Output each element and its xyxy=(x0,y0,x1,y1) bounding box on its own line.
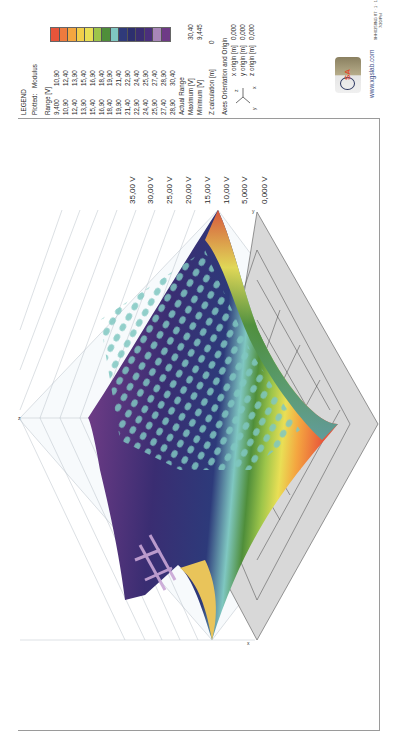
x-axis-label: x xyxy=(247,640,250,646)
voltage-surface xyxy=(88,210,338,640)
y-axis-label: y xyxy=(252,208,255,214)
surface-plot: z x y xyxy=(0,0,393,736)
